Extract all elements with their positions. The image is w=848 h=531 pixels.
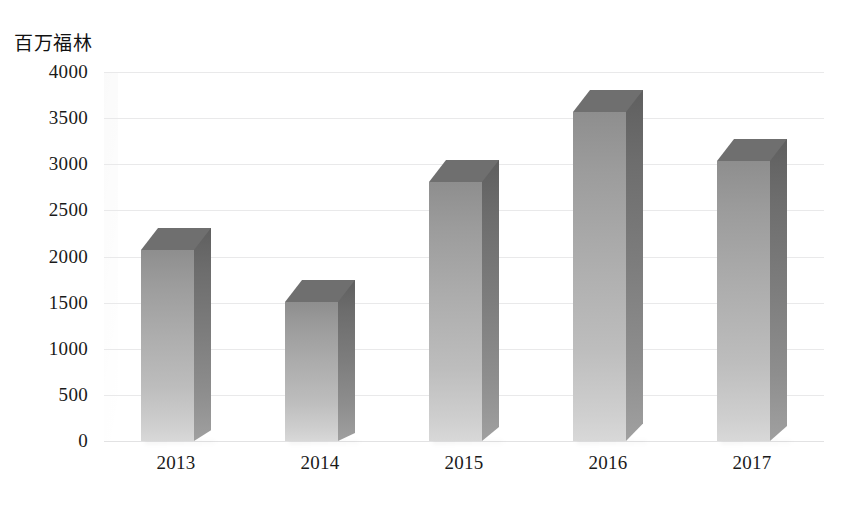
- bar-front-face: [141, 250, 194, 441]
- y-axis-tick-label: 2000: [49, 246, 88, 268]
- y-axis-tick-labels: 40003500300025002000150010005000: [0, 72, 96, 441]
- x-axis-tick-label: 2013: [156, 452, 195, 474]
- bar-side-face: [194, 228, 211, 441]
- bar-front-face: [717, 161, 770, 441]
- y-axis-unit-label: 百万福林: [14, 28, 92, 55]
- y-axis-tick-label: 3000: [49, 153, 88, 175]
- x-axis-tick-label: 2016: [588, 452, 627, 474]
- bar-front-face: [429, 182, 482, 441]
- y-axis-tick-label: 0: [78, 430, 88, 452]
- y-axis-tick-label: 2500: [49, 199, 88, 221]
- x-axis-tick-labels: 20132014201520162017: [104, 452, 824, 482]
- bar-top-face: [573, 90, 643, 112]
- bar-chart: 百万福林 40003500300025002000150010005000 20…: [0, 0, 848, 531]
- bar-top-face: [429, 160, 499, 182]
- bars-layer: [104, 72, 824, 441]
- y-axis-tick-label: 4000: [49, 61, 88, 83]
- bottom-caption: [0, 521, 848, 531]
- y-axis-tick-label: 1000: [49, 338, 88, 360]
- bar-side-face: [770, 139, 787, 441]
- x-axis-tick-label: 2014: [300, 452, 339, 474]
- x-axis-tick-label: 2017: [732, 452, 771, 474]
- bar-column[interactable]: [285, 280, 355, 441]
- bar-column[interactable]: [141, 228, 211, 441]
- y-axis-tick-label: 1500: [49, 292, 88, 314]
- bar-top-face: [141, 228, 211, 250]
- bar-front-face: [573, 112, 626, 441]
- x-axis-tick-label: 2015: [444, 452, 483, 474]
- bar-side-face: [626, 90, 643, 441]
- y-axis-tick-label: 500: [59, 384, 88, 406]
- bar-side-face: [482, 160, 499, 441]
- bar-column[interactable]: [573, 90, 643, 441]
- bar-top-face: [285, 280, 355, 302]
- bar-column[interactable]: [717, 139, 787, 441]
- bar-column[interactable]: [429, 160, 499, 441]
- bar-front-face: [285, 302, 338, 441]
- bar-side-face: [338, 280, 355, 441]
- bar-top-face: [717, 139, 787, 161]
- y-axis-tick-label: 3500: [49, 107, 88, 129]
